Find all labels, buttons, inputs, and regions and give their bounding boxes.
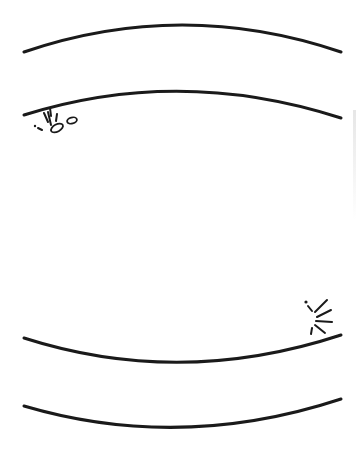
crack-line: [44, 113, 48, 122]
top-arc-outer: [24, 25, 341, 52]
arcs-layer: [24, 25, 341, 427]
bottom-arc-inner: [24, 335, 341, 362]
crack-line: [308, 306, 312, 311]
crack-line: [316, 321, 332, 322]
debris-dot: [34, 125, 36, 127]
crack-line: [311, 328, 312, 334]
crack-line: [315, 325, 325, 333]
illustration-canvas: [0, 0, 356, 456]
crack-line: [315, 300, 327, 312]
lower-right-crack: [304, 300, 332, 334]
upper-left-crack: [34, 108, 78, 134]
crack-line: [38, 128, 42, 130]
crack-line: [317, 310, 331, 317]
debris-pebble: [50, 122, 65, 134]
curved-bands-drawing: [0, 0, 356, 456]
debris-pebble: [66, 116, 77, 124]
debris-dot: [304, 300, 307, 303]
crack-line: [50, 108, 51, 116]
cracks-layer: [34, 108, 332, 334]
top-arc-inner: [24, 91, 341, 118]
bottom-arc-outer: [24, 399, 341, 427]
crack-line: [56, 114, 57, 121]
